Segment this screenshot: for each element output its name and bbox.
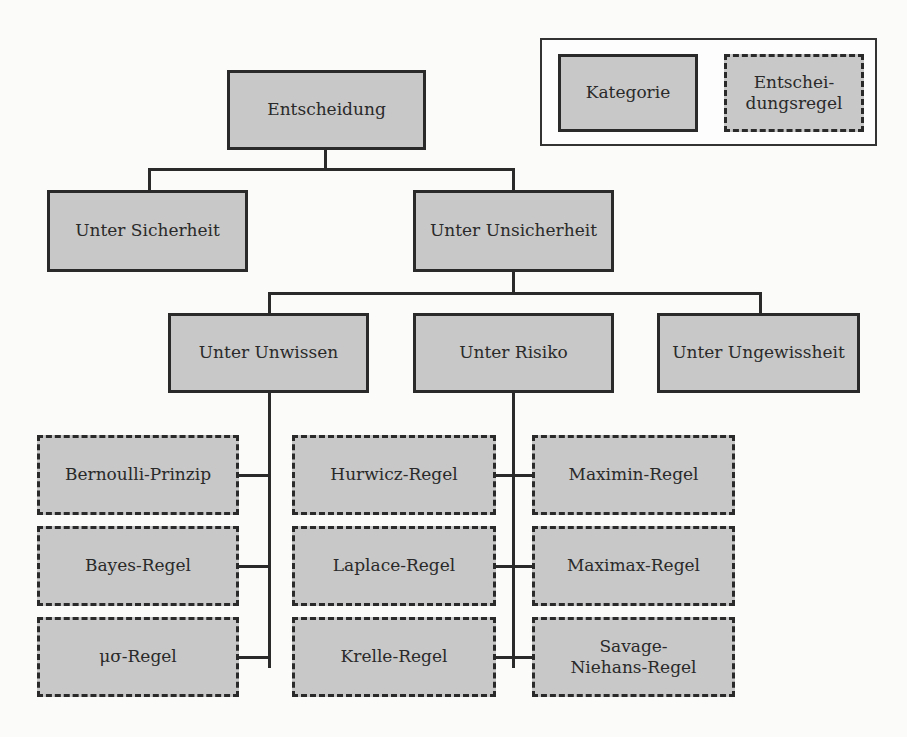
legend-rule-box: Entschei- dungsregel — [724, 54, 864, 132]
connector — [148, 168, 514, 171]
node-unter-unwissen: Unter Unwissen — [168, 313, 369, 393]
legend-rule-label-1: Entschei- — [754, 72, 835, 93]
rule-hurwicz-regel: Hurwicz-Regel — [292, 435, 496, 515]
rule-label: Bernoulli-Prinzip — [65, 464, 211, 485]
node-label: Unter Ungewissheit — [672, 342, 845, 363]
rule-label: Maximin-Regel — [568, 464, 698, 485]
rule-mu-sigma-regel: μσ-Regel — [37, 617, 239, 697]
rule-label: Laplace-Regel — [333, 555, 455, 576]
connector — [494, 565, 534, 568]
rule-label: Krelle-Regel — [341, 646, 448, 667]
rule-bernoulli-prinzip: Bernoulli-Prinzip — [37, 435, 239, 515]
node-unter-ungewissheit: Unter Ungewissheit — [657, 313, 860, 393]
connector — [236, 474, 270, 477]
connector — [494, 656, 534, 659]
rule-label: μσ-Regel — [99, 646, 177, 667]
rule-maximin-regel: Maximin-Regel — [532, 435, 735, 515]
connector — [148, 168, 151, 192]
node-label: Unter Sicherheit — [75, 220, 220, 241]
rule-label: Savage-Niehans-Regel — [565, 636, 702, 679]
node-label: Entscheidung — [267, 99, 386, 120]
connector — [494, 474, 534, 477]
legend-rule-label-2: dungsregel — [746, 93, 843, 114]
rule-label: Bayes-Regel — [85, 555, 191, 576]
rule-bayes-regel: Bayes-Regel — [37, 526, 239, 606]
node-label: Unter Unsicherheit — [430, 220, 597, 241]
rule-krelle-regel: Krelle-Regel — [292, 617, 496, 697]
connector — [512, 392, 515, 668]
rule-laplace-regel: Laplace-Regel — [292, 526, 496, 606]
node-unter-risiko: Unter Risiko — [413, 313, 614, 393]
legend-category-box: Kategorie — [558, 54, 698, 132]
rule-label: Hurwicz-Regel — [330, 464, 457, 485]
connector — [512, 270, 515, 294]
connector — [268, 292, 759, 295]
legend: Kategorie Entschei- dungsregel — [540, 38, 877, 146]
rule-maximax-regel: Maximax-Regel — [532, 526, 735, 606]
connector — [236, 656, 270, 659]
rule-label: Maximax-Regel — [567, 555, 700, 576]
legend-category-label: Kategorie — [586, 82, 670, 103]
node-label: Unter Risiko — [459, 342, 568, 363]
connector — [268, 392, 271, 668]
rule-savage-niehans-regel: Savage-Niehans-Regel — [532, 617, 735, 697]
node-label: Unter Unwissen — [199, 342, 338, 363]
connector — [236, 565, 270, 568]
node-entscheidung: Entscheidung — [227, 70, 426, 150]
connector — [324, 148, 327, 170]
connector — [512, 168, 515, 192]
node-unter-unsicherheit: Unter Unsicherheit — [413, 190, 614, 272]
node-unter-sicherheit: Unter Sicherheit — [47, 190, 248, 272]
